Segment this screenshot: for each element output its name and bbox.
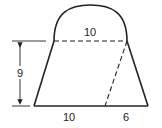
trapezoid-left-side <box>34 41 54 106</box>
bottom-left-length-label: 10 <box>63 111 75 123</box>
bottom-right-length-label: 6 <box>123 111 129 123</box>
dashed-diagonal-line <box>105 41 127 106</box>
diameter-label: 10 <box>84 26 96 38</box>
trapezoid-right-side <box>127 41 148 106</box>
composite-shape-diagram: 9 10 10 6 <box>0 0 162 128</box>
height-label: 9 <box>17 67 23 79</box>
